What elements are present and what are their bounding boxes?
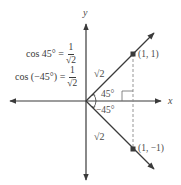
point-1-1 (131, 52, 136, 57)
equation-lhs: cos 45° = (26, 49, 64, 59)
lower-hypotenuse-label: √2 (94, 131, 105, 142)
fraction-numerator: 1 (69, 66, 76, 78)
fraction-denominator: √2 (66, 55, 76, 66)
unit-circle-angle-diagram: y x (1, 1) (1, −1) √2 √2 45° −45° (0, 0, 181, 185)
equation-lhs: cos (−45°) = (15, 72, 65, 82)
ray-45-degrees (86, 33, 154, 101)
equation-cos-45: cos 45° = 1 √2 (26, 43, 76, 65)
point-1-neg1 (131, 147, 136, 152)
fraction-numerator: 1 (68, 43, 75, 55)
upper-hypotenuse-label: √2 (94, 68, 105, 79)
x-axis-label: x (167, 95, 173, 106)
angle-label-negative-45: −45° (96, 105, 115, 115)
equation-cos-negative-45: cos (−45°) = 1 √2 (15, 66, 77, 88)
right-angle-marker (122, 91, 133, 101)
point-label-1-1: (1, 1) (138, 49, 159, 60)
fraction: 1 √2 (67, 66, 77, 88)
point-label-1-neg1: (1, −1) (138, 143, 164, 154)
fraction: 1 √2 (66, 43, 76, 65)
angle-label-45: 45° (101, 89, 115, 99)
fraction-denominator: √2 (67, 78, 77, 89)
y-axis-label: y (82, 7, 88, 18)
